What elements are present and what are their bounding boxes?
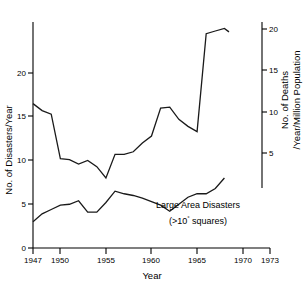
x-ticklabel-1960: 1960 [142,256,160,265]
right-axis-title-line1: No. of Deaths [279,71,290,129]
left-ticklabel-5: 5 [22,200,27,209]
right-ticklabel-10: 10 [269,108,278,117]
left-ticklabel-20: 20 [17,69,26,78]
left-ticklabel-10: 10 [17,156,26,165]
chart-container: 0 5 10 15 20 No. of Disasters/Year 1947 … [0,0,306,283]
left-axis-title: No. of Disasters/Year [3,105,14,194]
annotation-line-1: Large Area Disasters [156,200,241,210]
right-axis-title-line2: /Year/Million Population [291,51,302,150]
x-axis: 1947 1950 1955 1960 1965 1970 1973 Year [24,248,279,281]
disasters-deaths-line-chart: 0 5 10 15 20 No. of Disasters/Year 1947 … [0,0,306,283]
x-ticklabel-1970: 1970 [234,256,252,265]
annotation-line-2: (>10° squares) [169,215,227,226]
right-ticklabel-15: 15 [269,66,278,75]
large-area-disasters-annotation: Large Area Disasters (>10° squares) [156,200,241,226]
left-ticklabel-15: 15 [17,112,26,121]
x-axis-title: Year [142,270,161,281]
series-line-disasters-per-year [33,28,229,178]
x-ticklabel-1965: 1965 [188,256,206,265]
left-ticklabel-0: 0 [22,244,27,253]
x-ticklabel-1955: 1955 [97,256,115,265]
right-ticklabel-20: 20 [269,25,278,34]
left-y-axis: 0 5 10 15 20 No. of Disasters/Year [3,22,33,253]
right-ticklabel-5: 5 [269,149,274,158]
x-ticklabel-1950: 1950 [51,256,69,265]
x-ticklabel-1973: 1973 [261,256,279,265]
annotation-line-2-suffix: squares) [190,216,228,226]
right-y-axis: 20 15 10 5 No. of Deaths /Year/Million P… [262,22,302,188]
annotation-line-2-prefix: (>10 [169,216,187,226]
x-ticklabel-1947: 1947 [24,256,42,265]
